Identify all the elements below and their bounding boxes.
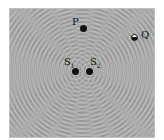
source-s1-label: S1: [64, 57, 75, 69]
point-p-marker: [80, 25, 87, 32]
source-s2-label: S2: [90, 57, 101, 69]
source-s1-marker: [72, 68, 79, 75]
interference-pattern-panel: P Q S1 S2: [9, 8, 155, 138]
point-q-label: Q: [141, 30, 149, 40]
source-s2-marker: [86, 68, 93, 75]
point-p-label: P: [72, 17, 79, 27]
point-q-marker: [131, 34, 138, 41]
